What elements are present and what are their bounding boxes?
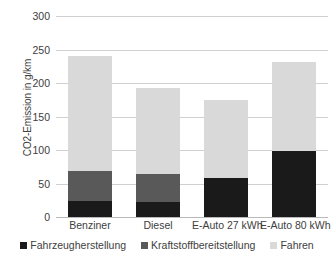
bar-segment[interactable] — [272, 62, 316, 152]
bar-stack[interactable] — [204, 100, 248, 217]
y-axis-tick-label: 100 — [8, 145, 50, 155]
y-axis-tick-label: 0 — [8, 212, 50, 222]
bar-stack[interactable] — [68, 56, 112, 217]
legend-label: Fahrzeugherstellung — [30, 239, 126, 251]
legend-label: Fahren — [280, 239, 313, 251]
bar-group[interactable] — [124, 16, 192, 217]
bar-segment[interactable] — [136, 174, 180, 201]
y-axis-title: CO2-Emission in g/km — [22, 13, 33, 203]
bar-segment[interactable] — [68, 201, 112, 217]
legend-item[interactable]: Fahren — [270, 239, 313, 251]
bars-layer — [56, 16, 328, 217]
chart-legend: FahrzeugherstellungKraftstoffbereitstell… — [0, 239, 334, 251]
legend-item[interactable]: Kraftstoffbereitstellung — [141, 239, 255, 251]
bar-segment[interactable] — [68, 171, 112, 201]
bar-segment[interactable] — [204, 178, 248, 217]
x-axis-category-label: Benziner — [56, 219, 124, 232]
bar-group[interactable] — [56, 16, 124, 217]
x-axis-category-label: E-Auto 27 kWh — [192, 219, 260, 232]
x-axis-category-label: E-Auto 80 kWh — [260, 219, 328, 232]
y-axis-tick-label: 300 — [8, 11, 50, 21]
y-axis-tick-label: 50 — [8, 179, 50, 189]
y-axis-tick-label: 250 — [8, 45, 50, 55]
x-axis-category-label: Diesel — [124, 219, 192, 232]
legend-item[interactable]: Fahrzeugherstellung — [20, 239, 126, 251]
y-axis-tick-label: 200 — [8, 78, 50, 88]
legend-swatch-icon — [270, 242, 277, 249]
legend-label: Kraftstoffbereitstellung — [151, 239, 255, 251]
bar-segment[interactable] — [272, 151, 316, 217]
bar-segment[interactable] — [136, 202, 180, 217]
gridline — [56, 217, 328, 218]
legend-swatch-icon — [141, 242, 148, 249]
bar-stack[interactable] — [136, 88, 180, 217]
bar-segment[interactable] — [136, 88, 180, 174]
x-axis-category-labels: BenzinerDieselE-Auto 27 kWhE-Auto 80 kWh — [56, 219, 328, 235]
bar-stack[interactable] — [272, 62, 316, 217]
bar-group[interactable] — [192, 16, 260, 217]
stacked-bar-chart: CO2-Emission in g/km 300250200150100500 … — [0, 0, 334, 264]
bar-group[interactable] — [260, 16, 328, 217]
legend-swatch-icon — [20, 242, 27, 249]
bar-segment[interactable] — [204, 100, 248, 178]
bar-segment[interactable] — [68, 56, 112, 171]
y-axis-tick-label: 150 — [8, 112, 50, 122]
plot-area — [56, 16, 328, 217]
